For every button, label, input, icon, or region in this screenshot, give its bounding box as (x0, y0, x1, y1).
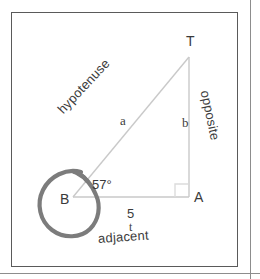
right-angle-marker (175, 184, 188, 197)
figure-page: T A B hypotenuse a opposite b 57° 5 t ad… (0, 0, 260, 279)
adjacent-label: adjacent (98, 228, 150, 245)
hypotenuse-variable-label: a (120, 114, 126, 127)
angle-measure-label: 57° (92, 178, 112, 191)
opposite-variable-label: b (182, 116, 189, 129)
adjacent-length-value: 5 (127, 207, 134, 220)
vertex-label-b: B (60, 192, 69, 206)
vertex-label-t: T (186, 34, 195, 48)
vertex-label-a: A (194, 190, 203, 204)
annotation-circle-overshoot (74, 172, 87, 181)
